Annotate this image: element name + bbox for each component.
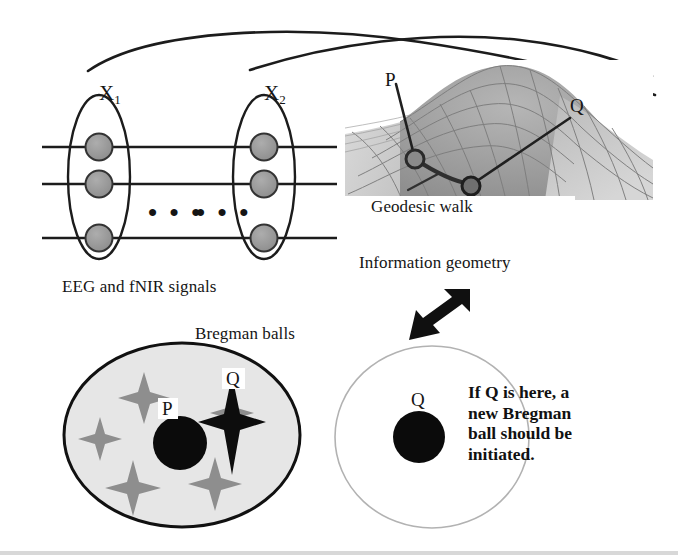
signal-node [251,134,278,161]
manifold-point-label-p: P [385,70,396,89]
new-ball-note-line: initiated. [468,444,628,465]
bregman-center-q [393,411,445,463]
geodesic-endpoint-q [462,177,480,195]
information-geometry-label: Information geometry [359,254,511,271]
signals-caption: EEG and fNIR signals [62,278,217,295]
geodesic-walk-caption: Geodesic walk [368,198,476,215]
down-left-arrow-icon [409,289,470,340]
signal-node [251,171,278,198]
information-geometry-arrow [409,289,470,340]
bregman-balls-title: Bregman balls [195,325,295,342]
existing-ball-label-q: Q [222,368,245,389]
existing-ball-label-p: P [158,398,178,419]
new-ball-note-line: new Bregman [468,403,628,424]
figure-canvas: X1 X2 • • • • • • EEG and fNIR signals P… [0,0,678,555]
signal-node [86,134,113,161]
new-ball-note: If Q is here, a new Bregman ball should … [468,382,628,465]
geodesic-endpoint-p [406,150,424,168]
group-label-x2: X2 [243,62,286,125]
signal-node [86,171,113,198]
new-ball-label-q: Q [411,390,425,409]
bregman-center-p [153,416,207,470]
signal-node [251,225,278,252]
new-ball-note-line: ball should be [468,423,628,444]
signals-ellipsis-right: • • • [196,200,251,226]
bregman-ball-existing [64,343,300,527]
group-label-x1: X1 [78,62,121,125]
page-bottom-rule [0,551,678,555]
signal-node [86,225,113,252]
new-ball-note-line: If Q is here, a [468,382,628,403]
manifold-point-label-q: Q [570,96,584,115]
